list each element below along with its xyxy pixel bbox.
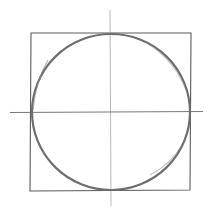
circle-in-square-diagram (0, 0, 211, 216)
circle-shading-right (150, 45, 186, 90)
vertical-axis (110, 10, 111, 206)
circle-shading-bottom (150, 145, 182, 175)
sketch-canvas: Circle inscribed in a square with center… (0, 0, 211, 216)
horizontal-axis (10, 112, 203, 113)
